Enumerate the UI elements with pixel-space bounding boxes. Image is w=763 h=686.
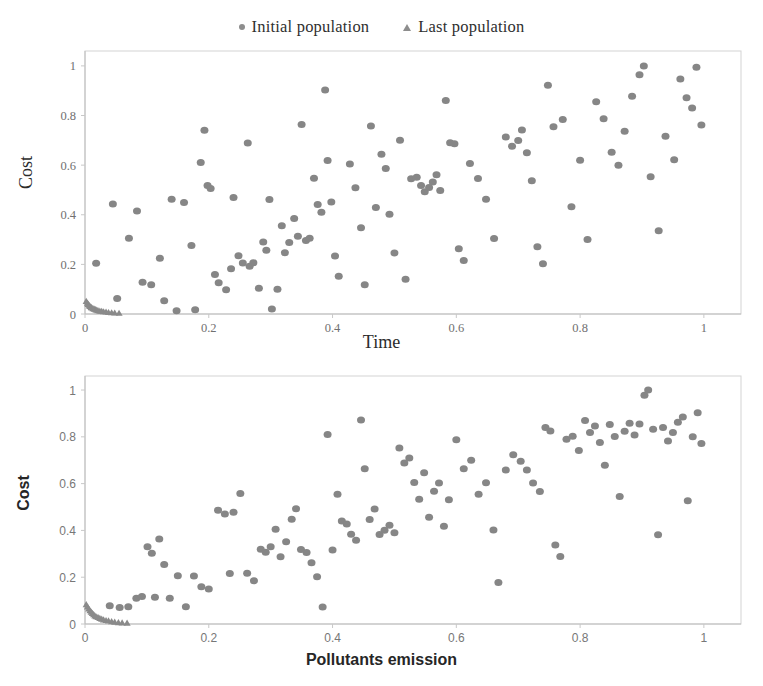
data-point xyxy=(278,222,286,229)
data-point xyxy=(413,174,421,181)
series-circle xyxy=(106,387,706,611)
data-point xyxy=(644,387,652,394)
data-point xyxy=(180,199,188,206)
data-point xyxy=(285,239,293,246)
y-tick-label: 0 xyxy=(69,618,76,632)
data-point xyxy=(621,428,629,435)
y-tick-label: 0.8 xyxy=(59,430,76,444)
data-point xyxy=(306,235,314,242)
data-point xyxy=(321,86,329,93)
data-point xyxy=(133,208,141,215)
data-point xyxy=(442,97,450,104)
data-point xyxy=(288,516,296,523)
data-point xyxy=(160,297,168,304)
y-tick-label: 0.8 xyxy=(60,109,76,123)
data-point xyxy=(697,121,705,128)
data-point xyxy=(313,573,321,580)
data-point xyxy=(273,286,281,293)
data-point xyxy=(366,516,374,523)
data-point xyxy=(518,126,526,133)
data-point xyxy=(227,265,235,272)
data-point xyxy=(124,603,132,610)
data-point xyxy=(600,115,608,122)
data-point xyxy=(584,236,592,243)
data-point xyxy=(517,458,525,465)
data-point xyxy=(420,469,428,476)
data-point xyxy=(282,538,290,545)
data-point xyxy=(310,175,318,182)
data-point xyxy=(243,570,251,577)
data-point xyxy=(155,536,163,543)
data-point xyxy=(200,127,208,134)
legend-label-initial-population: Initial population xyxy=(252,17,370,37)
y-tick-label: 1 xyxy=(70,59,76,73)
data-point xyxy=(190,573,198,580)
legend-entry-last-population: Last population xyxy=(403,17,524,37)
data-point xyxy=(385,522,393,529)
data-point xyxy=(474,175,482,182)
data-point xyxy=(546,427,554,434)
data-point xyxy=(489,526,497,533)
data-point xyxy=(502,467,510,474)
data-point xyxy=(214,507,222,514)
data-point xyxy=(151,594,159,601)
series-circle xyxy=(92,62,705,314)
data-point xyxy=(197,159,205,166)
data-point xyxy=(575,447,583,454)
data-point xyxy=(544,82,552,89)
data-point xyxy=(317,209,325,216)
data-point xyxy=(528,177,536,184)
data-point xyxy=(272,526,280,533)
data-point xyxy=(692,64,700,71)
data-point xyxy=(346,160,354,167)
data-point xyxy=(168,196,176,203)
data-point xyxy=(425,514,433,521)
data-point xyxy=(211,271,219,278)
data-point xyxy=(405,454,413,461)
data-point xyxy=(331,252,339,259)
x-tick-label: 0.8 xyxy=(572,631,589,645)
data-point xyxy=(187,242,195,249)
data-point xyxy=(508,143,516,150)
data-point xyxy=(267,543,275,550)
data-point xyxy=(144,543,152,550)
data-point xyxy=(417,182,425,189)
data-point xyxy=(415,496,423,503)
data-point xyxy=(292,505,300,512)
data-point xyxy=(482,479,490,486)
data-point xyxy=(396,137,404,144)
data-point xyxy=(559,116,567,123)
data-point xyxy=(670,156,678,163)
data-point xyxy=(139,279,147,286)
data-point xyxy=(191,306,199,313)
data-point xyxy=(361,281,369,288)
data-point xyxy=(239,259,247,266)
data-point xyxy=(226,570,234,577)
data-point xyxy=(659,424,667,431)
x-tick-label: 1 xyxy=(701,631,708,645)
data-point xyxy=(166,595,174,602)
y-tick-label: 0.2 xyxy=(59,571,76,585)
data-point xyxy=(661,133,669,140)
data-point xyxy=(281,249,289,256)
y-tick-label: 0.6 xyxy=(60,159,76,173)
data-point xyxy=(357,416,365,423)
data-point xyxy=(182,603,190,610)
data-point xyxy=(205,585,213,592)
data-point xyxy=(116,604,124,611)
data-point xyxy=(533,243,541,250)
data-point xyxy=(410,479,418,486)
data-point xyxy=(113,295,121,302)
data-point xyxy=(234,252,242,259)
data-point xyxy=(614,162,622,169)
data-point xyxy=(450,140,458,147)
data-point xyxy=(197,583,205,590)
data-point xyxy=(460,465,468,472)
data-point xyxy=(352,537,360,544)
data-point xyxy=(654,531,662,538)
plot-area-pollutants-vs-cost: 00.20.40.60.8100.20.40.60.81 xyxy=(0,366,763,656)
data-point xyxy=(390,529,398,536)
data-point xyxy=(371,506,379,513)
data-point xyxy=(688,105,696,112)
data-point xyxy=(689,433,697,440)
